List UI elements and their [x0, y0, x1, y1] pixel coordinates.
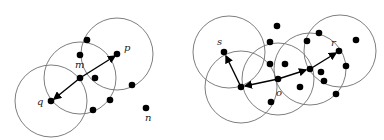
data-point: [268, 99, 275, 106]
point-s: [221, 49, 228, 56]
data-point: [84, 37, 91, 44]
dbscan-diagram: m p q n s o r: [0, 0, 384, 140]
data-point: [333, 91, 340, 98]
data-point: [267, 61, 274, 68]
point-q: [48, 98, 55, 105]
data-point: [267, 39, 274, 46]
data-point: [107, 97, 114, 104]
core-point: [307, 66, 314, 73]
data-point: [297, 84, 304, 91]
data-point: [274, 23, 281, 30]
point-o: [275, 76, 282, 83]
label-o: o: [276, 87, 282, 98]
arrow-o-to-a: [245, 79, 278, 86]
right-diagram: s o r: [193, 15, 376, 123]
arrow-o-to-b: [278, 70, 306, 79]
data-point: [77, 52, 84, 59]
data-point: [318, 69, 325, 76]
arrow-m-to-p: [80, 56, 115, 78]
label-n: n: [145, 112, 151, 123]
data-point: [321, 78, 328, 85]
label-m: m: [75, 59, 84, 70]
data-point: [343, 63, 350, 70]
data-point: [90, 107, 97, 114]
point-n: [143, 105, 150, 112]
label-r: r: [331, 37, 337, 48]
data-point: [92, 75, 99, 82]
label-p: p: [124, 42, 131, 53]
arrow-to-s: [226, 56, 241, 87]
data-point: [129, 82, 136, 89]
left-diagram: m p q n: [15, 18, 153, 137]
label-q: q: [37, 96, 43, 107]
core-point: [238, 84, 245, 91]
arrow-m-to-q: [54, 78, 80, 99]
point-m: [77, 75, 84, 82]
data-point: [316, 30, 323, 37]
point-p: [114, 51, 121, 58]
data-point: [353, 37, 360, 44]
arrow-b-to-r: [310, 53, 336, 69]
data-point: [282, 61, 289, 68]
data-point: [304, 38, 311, 45]
point-r: [336, 48, 343, 55]
label-s: s: [217, 36, 222, 47]
